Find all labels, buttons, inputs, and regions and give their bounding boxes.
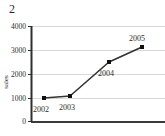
- data-point-label-2005: 2005: [129, 34, 145, 43]
- figure-container: 2 4000 3000 2000 1000 0 sales: [0, 0, 165, 136]
- data-point-2003[interactable]: [68, 94, 72, 98]
- y-axis-title: sales: [2, 75, 10, 89]
- y-tick-label-1000: 1000: [11, 94, 26, 103]
- data-point-label-2004: 2004: [98, 69, 114, 78]
- data-point-2005[interactable]: [140, 45, 144, 49]
- y-tick-label-3000: 3000: [11, 46, 26, 55]
- y-tick-label-2000: 2000: [11, 70, 26, 79]
- y-tick-label-4000: 4000: [11, 22, 26, 31]
- y-tick-label-0: 0: [22, 117, 26, 126]
- data-point-label-2003: 2003: [59, 103, 75, 112]
- data-point-2004[interactable]: [107, 60, 111, 64]
- data-point-label-2002: 2002: [33, 105, 49, 114]
- line-chart: 4000 3000 2000 1000 0 sales 2002 2003 20…: [0, 0, 165, 136]
- data-point-2002[interactable]: [42, 96, 46, 100]
